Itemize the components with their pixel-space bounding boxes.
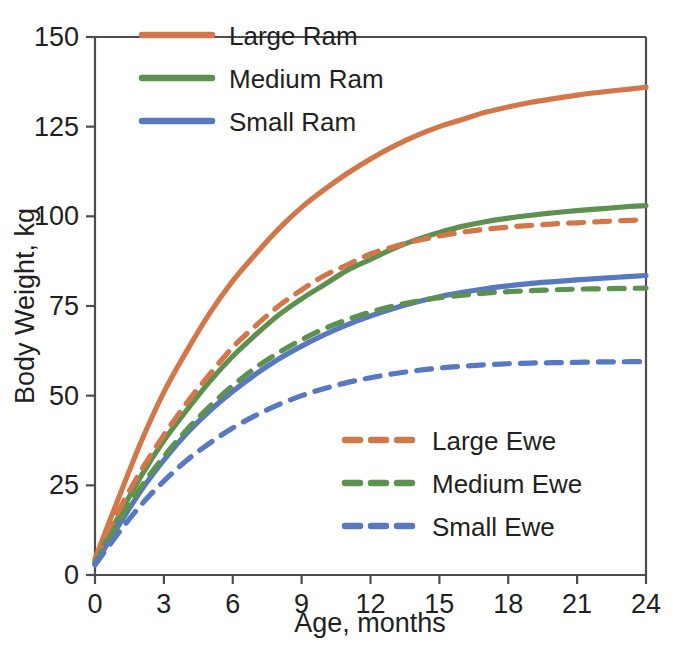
legend-ram-label-0: Large Ram <box>229 21 358 51</box>
legend-ewe-label-2: Small Ewe <box>432 512 555 542</box>
x-tick-label: 21 <box>562 589 592 619</box>
x-tick-label: 3 <box>156 589 171 619</box>
x-tick-label: 6 <box>225 589 240 619</box>
legend-ewes: Large EweMedium EweSmall Ewe <box>345 426 582 542</box>
x-tick-label: 24 <box>631 589 661 619</box>
y-axis-ticks <box>86 37 95 575</box>
legend-ram-label-2: Small Ram <box>229 107 356 137</box>
legend-ewe-label-1: Medium Ewe <box>432 469 582 499</box>
x-axis-title: Age, months <box>294 608 446 638</box>
y-axis-tick-labels: 0255075100125150 <box>34 22 79 590</box>
legend-rams: Large RamMedium RamSmall Ram <box>142 21 384 137</box>
growth-curve-figure: 0255075100125150 03691215182124 Body Wei… <box>0 0 673 647</box>
y-tick-label: 25 <box>49 470 79 500</box>
y-tick-label: 100 <box>34 201 79 231</box>
y-tick-label: 150 <box>34 22 79 52</box>
x-tick-label: 0 <box>87 589 102 619</box>
x-axis-ticks <box>95 575 646 584</box>
y-tick-label: 75 <box>49 291 79 321</box>
curve-medium-ram <box>95 206 646 563</box>
legend-ram-label-1: Medium Ram <box>229 64 384 94</box>
y-tick-label: 125 <box>34 112 79 142</box>
chart-canvas: 0255075100125150 03691215182124 Body Wei… <box>0 0 673 647</box>
curve-large-ewe <box>95 220 646 561</box>
legend-ewe-label-0: Large Ewe <box>432 426 556 456</box>
y-axis-title: Body Weight, kg <box>10 208 40 404</box>
y-tick-label: 50 <box>49 381 79 411</box>
y-tick-label: 0 <box>64 560 79 590</box>
x-tick-label: 18 <box>493 589 523 619</box>
curve-small-ewe <box>95 362 646 565</box>
